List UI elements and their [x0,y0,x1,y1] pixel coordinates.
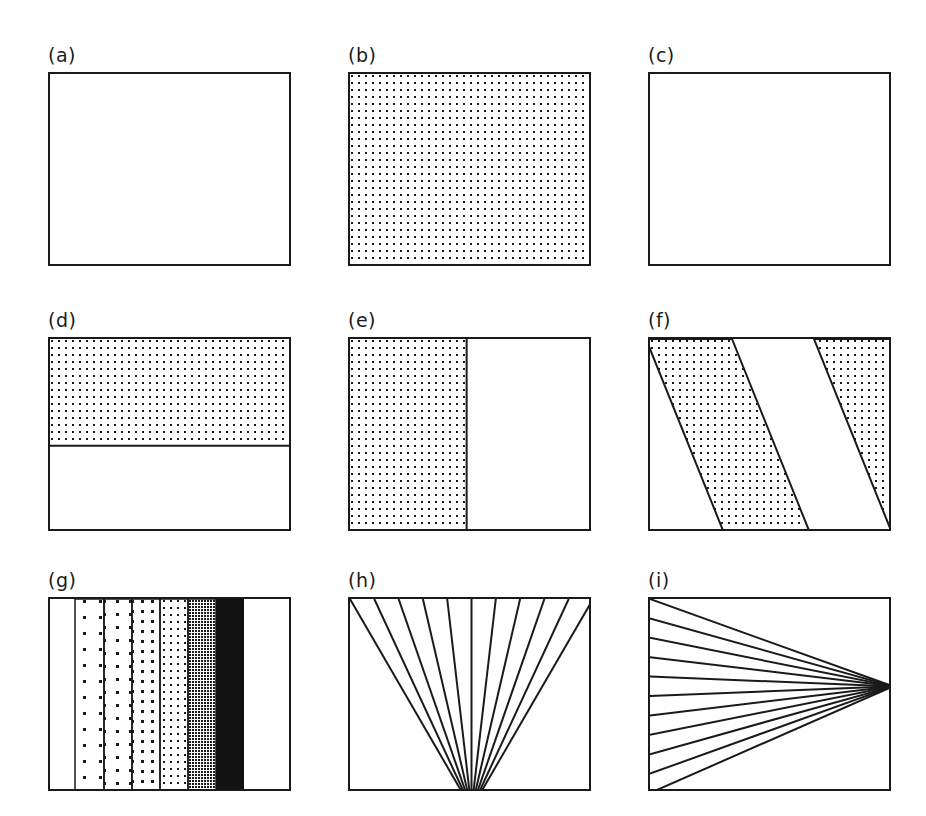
panel-d: (d) [48,311,291,531]
panel-g: (g) [48,571,291,791]
panel-graphic-h [350,599,591,791]
panel-f: (f) [648,311,891,531]
panel-h: (h) [348,571,591,791]
panel-box-g [48,597,291,791]
panel-label-c: (c) [648,46,675,65]
panel-label-f: (f) [648,311,671,330]
panel-box-d [48,337,291,531]
panel-graphic-a [50,74,291,266]
panel-i: (i) [648,571,891,791]
panel-c: (c) [648,46,891,266]
panel-graphic-f [650,339,891,531]
panel-label-i: (i) [648,571,670,590]
panel-b: (b) [348,46,591,266]
panel-box-b [348,72,591,266]
panel-graphic-c [650,74,891,266]
panel-box-c [648,72,891,266]
panel-box-a [48,72,291,266]
figure-canvas: (a)(b)(c)(d)(e)(f)(g)(h)(i) [0,0,926,816]
panel-box-i [648,597,891,791]
panel-a: (a) [48,46,291,266]
panel-box-e [348,337,591,531]
panel-label-a: (a) [48,46,76,65]
panel-graphic-i [650,599,891,791]
panel-label-e: (e) [348,311,376,330]
panel-label-h: (h) [348,571,376,590]
panel-box-h [348,597,591,791]
panel-graphic-e [350,339,591,531]
panel-graphic-b [350,74,591,266]
panel-label-d: (d) [48,311,76,330]
panel-e: (e) [348,311,591,531]
panel-box-f [648,337,891,531]
panel-label-g: (g) [48,571,76,590]
panel-graphic-g [50,599,291,791]
panel-label-b: (b) [348,46,376,65]
panel-graphic-d [50,339,291,531]
